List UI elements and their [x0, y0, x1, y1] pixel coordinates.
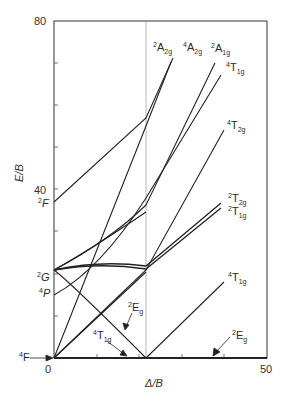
arrow-2Eg-right: [216, 337, 230, 352]
x-max-label: 50: [260, 364, 272, 375]
label-2T2g: 2T2g: [228, 193, 246, 204]
label-4T1g-upper: 4T1g: [226, 62, 244, 73]
term-2F: 2F: [38, 198, 49, 209]
label-2A1g: 2A1g: [211, 43, 230, 54]
curve-cross-b: [54, 272, 146, 358]
label-2T1g: 2T1g: [228, 206, 246, 217]
label-2Eg-mid: 2Eg: [128, 302, 143, 313]
label-2A2g: 2A2g: [153, 42, 172, 53]
curve-2A2g: [54, 58, 173, 202]
term-4F: 4F: [19, 352, 30, 363]
arrows: [30, 313, 230, 361]
arrow-2Eg-mid-head: [123, 323, 129, 330]
label-2Eg-right: 2Eg: [232, 330, 247, 341]
y-mid-label: 40: [34, 185, 46, 196]
x-axis-title: Δ/B: [145, 378, 163, 389]
curve-4T1g-upper: [54, 75, 221, 295]
y-axis-title: E/B: [14, 164, 25, 182]
y-max-label: 80: [34, 16, 46, 27]
arrow-4F-head: [46, 355, 53, 361]
arrow-4T1g-mid-head: [120, 350, 127, 356]
label-4T1g-lower: 4T1g: [228, 272, 246, 283]
curve-4A2g: [54, 62, 171, 358]
x-min-label: 0: [45, 364, 51, 375]
term-4P: 4P: [39, 288, 50, 299]
curve-2A1g: [54, 63, 215, 270]
curve-4T2g: [54, 130, 224, 358]
label-4A2g: 4A2g: [183, 42, 202, 53]
label-4T2g: 4T2g: [227, 120, 245, 131]
y-ticks: [54, 63, 58, 316]
curve-4T1g-low-b: [146, 282, 224, 358]
label-4T1g-mid: 4T1g: [93, 330, 111, 341]
term-2G: 2G: [37, 272, 49, 283]
